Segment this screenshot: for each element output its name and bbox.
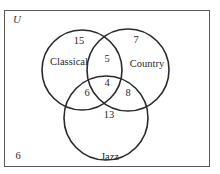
country-circle [87,29,169,111]
classical-jazz-count: 6 [84,88,89,99]
classical-set-label: Classical [50,57,88,68]
classical-only-count: 15 [74,36,85,47]
country-only-count: 7 [133,35,138,46]
jazz-only-count: 13 [104,110,115,121]
outside-count: 6 [15,151,20,162]
classical-country-count: 5 [104,54,109,65]
all-three-count: 4 [104,78,109,89]
venn-diagram [0,0,220,174]
jazz-set-label: Jazz [101,152,119,163]
country-set-label: Country [130,59,164,70]
country-jazz-count: 8 [125,88,130,99]
